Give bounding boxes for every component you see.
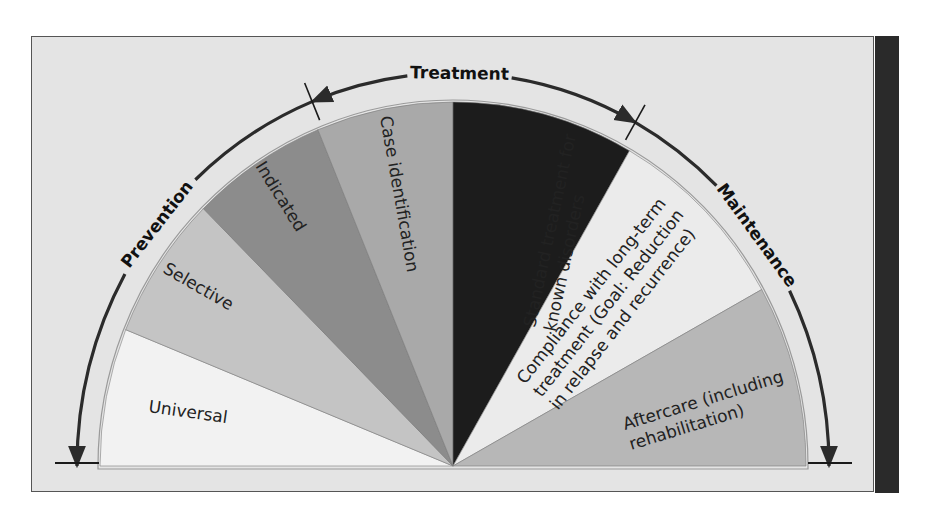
intervention-spectrum-diagram: UniversalSelectiveIndicatedCase identifi… [0, 0, 925, 517]
phase-label-treatment: Treatment [410, 62, 509, 84]
treatment-arc-segment [312, 76, 407, 102]
prevention-treatment-divider-tick [305, 83, 320, 120]
treatment-maintenance-divider-tick [626, 105, 645, 140]
